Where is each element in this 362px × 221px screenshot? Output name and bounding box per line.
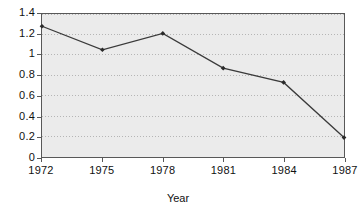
- y-tick-label: 1: [29, 47, 35, 59]
- data-point-marker: [100, 47, 105, 52]
- y-tick-label: 0.2: [19, 130, 35, 142]
- x-tick-mark: [223, 158, 224, 162]
- x-tick-label: 1972: [11, 164, 71, 176]
- y-tick-mark: [37, 137, 41, 138]
- x-tick-label: 1975: [72, 164, 132, 176]
- x-tick-label: 1978: [133, 164, 193, 176]
- y-tick-label: 0: [29, 151, 35, 163]
- y-tick-mark: [37, 96, 41, 97]
- x-tick-mark: [41, 158, 42, 162]
- y-tick-label: 1.2: [19, 27, 35, 39]
- y-tick-label: 0.4: [19, 110, 35, 122]
- x-axis-title: Year: [0, 192, 356, 204]
- y-tick-mark: [37, 13, 41, 14]
- data-point-marker: [40, 24, 45, 29]
- y-tick-label: 0.6: [19, 89, 35, 101]
- y-tick-label: 1.4: [19, 6, 35, 18]
- y-tick-mark: [37, 54, 41, 55]
- data-series-line: [42, 14, 344, 157]
- x-tick-mark: [345, 158, 346, 162]
- y-tick-mark: [37, 75, 41, 76]
- y-tick-label: 0.8: [19, 68, 35, 80]
- x-tick-label: 1984: [254, 164, 314, 176]
- x-tick-mark: [284, 158, 285, 162]
- y-tick-mark: [37, 117, 41, 118]
- x-tick-mark: [102, 158, 103, 162]
- y-tick-mark: [37, 34, 41, 35]
- x-tick-mark: [163, 158, 164, 162]
- plot-area: [41, 13, 345, 158]
- x-tick-label: 1987: [315, 164, 362, 176]
- x-tick-label: 1981: [193, 164, 253, 176]
- series-polyline: [42, 26, 344, 137]
